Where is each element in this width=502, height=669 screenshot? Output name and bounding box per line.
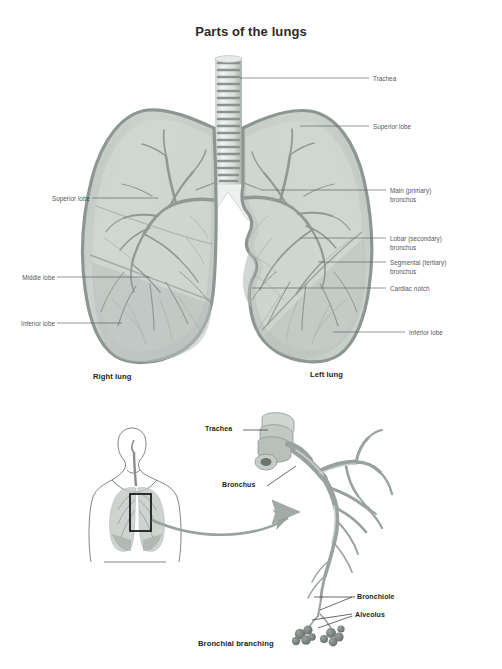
left-lung-shape bbox=[242, 110, 372, 361]
right-lung-shape bbox=[83, 110, 217, 363]
label-lobar-bronchus-line2: bronchus bbox=[390, 243, 416, 252]
label-segmental-bronchus-line1: Segmental (tertiary) bbox=[390, 258, 446, 267]
bronchial-branching-illustration bbox=[89, 413, 392, 647]
label-trachea-bottom: Trachea bbox=[205, 425, 232, 432]
label-middle-lobe: Middle lobe bbox=[0, 273, 55, 282]
label-alveolus: Alveolus bbox=[355, 611, 385, 618]
caption-right-lung: Right lung bbox=[93, 372, 132, 381]
label-superior-lobe-right: Superior lobe bbox=[0, 194, 90, 203]
alveolus-cluster bbox=[292, 625, 345, 646]
label-trachea-top: Trachea bbox=[373, 74, 396, 83]
label-main-bronchus-line2: bronchus bbox=[390, 195, 416, 204]
label-lobar-bronchus-line1: Lobar (secondary) bbox=[390, 234, 442, 243]
magnify-arrow bbox=[152, 500, 300, 535]
label-superior-lobe-left: Superior lobe bbox=[373, 122, 411, 131]
label-bronchiole: Bronchiole bbox=[357, 593, 395, 600]
label-cardiac-notch: Cardiac notch bbox=[390, 284, 430, 293]
caption-bronchial-branching: Bronchial branching bbox=[198, 639, 274, 648]
label-inferior-lobe-right: Inferior lobe bbox=[0, 319, 55, 328]
label-main-bronchus-line1: Main (primary) bbox=[390, 186, 431, 195]
label-segmental-bronchus-line2: bronchus bbox=[390, 267, 416, 276]
label-inferior-lobe-left: Inferior lobe bbox=[409, 328, 443, 337]
trachea-3d-model bbox=[255, 413, 310, 470]
label-bronchus-bottom: Bronchus bbox=[222, 481, 255, 488]
caption-left-lung: Left lung bbox=[310, 370, 343, 379]
